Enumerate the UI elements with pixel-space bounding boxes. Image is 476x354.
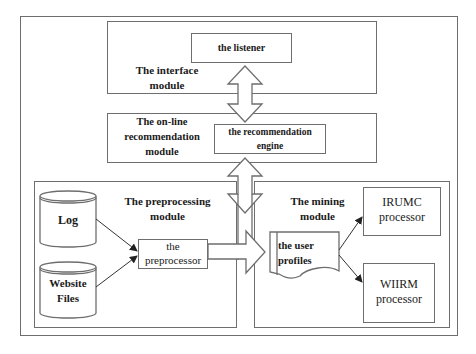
double-arrow-icon <box>228 66 262 122</box>
block-arrow-icon <box>208 231 265 273</box>
log-label: Log <box>40 213 96 228</box>
website-files-label: Website Files <box>40 276 96 306</box>
user-profiles-label: the user profiles <box>278 238 336 268</box>
profiles-to-wiirm-arrow <box>339 255 362 282</box>
double-arrow-icon <box>228 158 262 213</box>
profiles-to-irumc-arrow <box>339 217 362 250</box>
log-to-preprocessor-arrow <box>96 219 137 251</box>
files-to-preprocessor-arrow <box>96 256 137 287</box>
